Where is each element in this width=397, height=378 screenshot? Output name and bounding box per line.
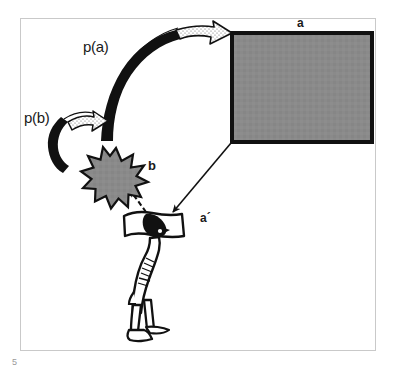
label-percept-a-prime: a´ <box>200 212 211 224</box>
label-p-a: p(a) <box>83 39 108 54</box>
arrow-object-to-observer <box>173 143 231 212</box>
label-object-a: a <box>297 17 304 29</box>
object-rectangle-shape <box>232 33 372 142</box>
label-percept-b: b <box>148 159 156 172</box>
arrow-p-b-tail <box>48 117 69 173</box>
diagram-canvas <box>0 0 397 378</box>
page-number: 5 <box>12 357 17 367</box>
arrow-p-a <box>101 21 232 141</box>
observer-figure <box>124 212 184 341</box>
observer-foot-front <box>146 327 169 334</box>
object-rectangle <box>232 33 372 142</box>
arrow-p-a-head <box>176 21 232 44</box>
percept-starburst <box>81 147 148 209</box>
page: p(a) p(b) a b a´ 5 <box>0 0 397 378</box>
arrow-p-a-tail <box>101 30 180 141</box>
percept-starburst-shape <box>81 147 148 209</box>
label-p-b: p(b) <box>24 110 49 125</box>
arrow-object-to-observer-line <box>173 143 231 212</box>
observer-leg-front <box>144 300 154 329</box>
observer-leg-back <box>131 305 141 331</box>
observer-eye <box>158 229 162 233</box>
